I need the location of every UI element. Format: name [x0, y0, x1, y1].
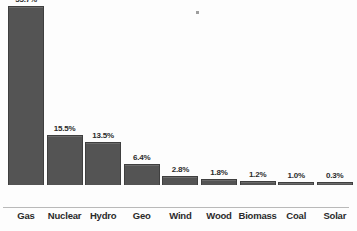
bar-group-hydro[interactable]: 13.5% [85, 142, 121, 185]
category-axis-line [3, 207, 349, 208]
bar-group-wind[interactable]: 2.8% [162, 176, 198, 185]
bar-value-label: 1.8% [210, 168, 227, 177]
bar-group-wood[interactable]: 1.8% [201, 179, 237, 185]
bar-value-label: 15.5% [54, 124, 76, 133]
bar-solar[interactable] [317, 182, 353, 185]
bar-value-label: 0.3% [326, 171, 343, 180]
bar-wood[interactable] [201, 179, 237, 185]
bar-hydro[interactable] [85, 142, 121, 185]
bar-group-gas[interactable]: 55.7% [8, 6, 44, 185]
bar-group-solar[interactable]: 0.3% [317, 182, 353, 185]
bar-value-label: 1.2% [249, 170, 266, 179]
bar-nuclear[interactable] [47, 135, 83, 185]
bar-group-biomass[interactable]: 1.2% [240, 181, 276, 185]
bar-value-label: 2.8% [172, 165, 189, 174]
bar-group-coal[interactable]: 1.0% [278, 182, 314, 185]
plot-area: 55.7% 15.5% 13.5% 6.4% 2.8% 1.8% 1.2% [0, 0, 352, 208]
bar-value-label: 6.4% [133, 153, 150, 162]
bar-wind[interactable] [162, 176, 198, 185]
bar-geo[interactable] [124, 164, 160, 185]
bar-value-label: 1.0% [287, 171, 304, 180]
bar-value-label: 55.7% [15, 0, 37, 4]
bar-gas[interactable] [8, 6, 44, 185]
bar-group-geo[interactable]: 6.4% [124, 164, 160, 185]
bar-group-nuclear[interactable]: 15.5% [47, 135, 83, 185]
bar-value-label: 13.5% [92, 131, 114, 140]
category-label-solar: Solar [306, 210, 357, 221]
bar-coal[interactable] [278, 182, 314, 185]
bar-biomass[interactable] [240, 181, 276, 185]
